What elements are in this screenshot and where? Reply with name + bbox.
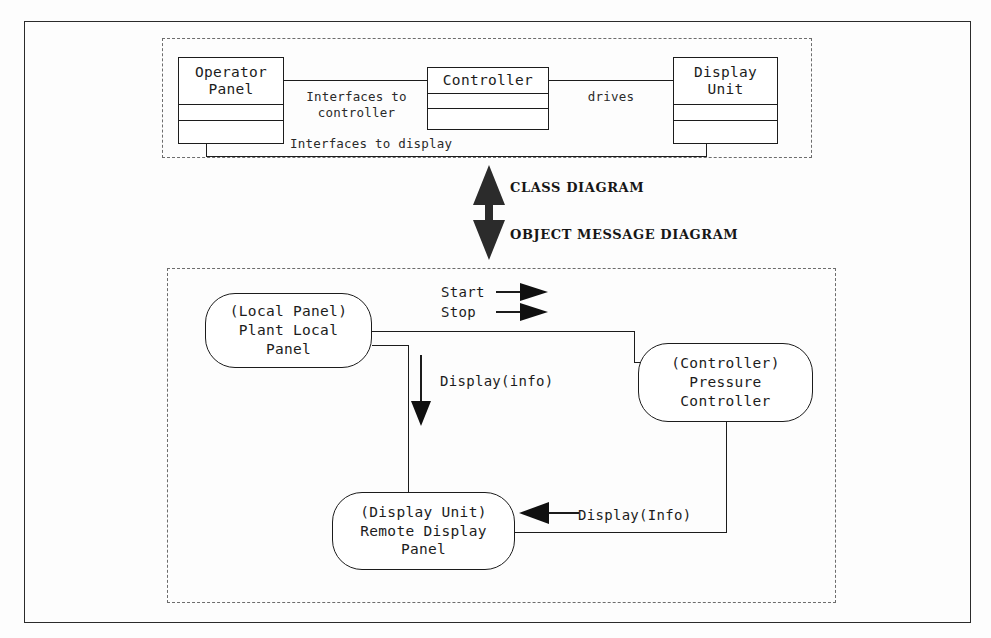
assoc-line-operator-display: [206, 156, 707, 157]
class-name-controller: Controller: [428, 68, 548, 94]
message-label-start: Start: [441, 283, 485, 302]
message-arrow-display-info: [405, 355, 437, 427]
assoc-line-controller-display: [549, 80, 673, 81]
object-node-remote-display-panel[interactable]: (Display Unit) Remote Display Panel: [332, 492, 515, 570]
caption-class-diagram: CLASS DIAGRAM: [510, 180, 644, 195]
message-label-display-info: Display(info): [440, 372, 553, 391]
arrow-down-icon: [473, 208, 505, 260]
link-localpanel-to-display-seg1: [372, 345, 409, 346]
object-node-plant-local-panel[interactable]: (Local Panel) Plant Local Panel: [205, 293, 372, 368]
class-attributes-controller: [428, 94, 548, 109]
object-node-pressure-controller[interactable]: (Controller) Pressure Controller: [638, 343, 813, 422]
class-attributes-display-unit: [674, 105, 777, 121]
message-label-display-Info: Display(Info): [578, 506, 691, 525]
message-arrow-display-Info: [517, 500, 579, 526]
link-controller-to-display-seg2: [513, 532, 727, 533]
caption-object-message-diagram: OBJECT MESSAGE DIAGRAM: [510, 227, 738, 242]
assoc-line-display-down: [706, 144, 707, 157]
assoc-line-operator-controller: [284, 80, 427, 81]
message-arrow-start: [496, 282, 552, 302]
diagram-split-arrows: [469, 165, 509, 260]
assoc-label-drives: drives: [559, 89, 663, 105]
class-operations-display-unit: [674, 121, 777, 143]
link-localpanel-to-controller-seg2: [634, 331, 635, 363]
class-name-display-unit: Display Unit: [674, 58, 777, 105]
class-box-operator-panel[interactable]: Operator Panel: [178, 57, 284, 144]
link-localpanel-to-controller-seg1: [372, 331, 635, 332]
class-operations-controller: [428, 109, 548, 129]
class-box-controller[interactable]: Controller: [427, 67, 549, 130]
arrow-right-icon: [520, 283, 548, 301]
arrow-right-icon: [520, 303, 548, 321]
class-attributes-operator-panel: [179, 105, 283, 121]
arrow-down-icon: [411, 401, 431, 426]
diagram-canvas: Operator Panel Controller Display Unit I…: [0, 0, 991, 638]
class-name-operator-panel: Operator Panel: [179, 58, 283, 105]
message-label-stop: Stop: [441, 303, 476, 322]
message-arrow-stop: [496, 302, 552, 322]
arrow-left-icon: [519, 502, 549, 524]
assoc-label-interfaces-to-controller: Interfaces to controller: [290, 89, 423, 120]
class-box-display-unit[interactable]: Display Unit: [673, 57, 778, 144]
class-operations-operator-panel: [179, 121, 283, 143]
link-controller-to-display-seg1: [726, 422, 727, 533]
assoc-label-interfaces-to-display: Interfaces to display: [290, 136, 610, 152]
